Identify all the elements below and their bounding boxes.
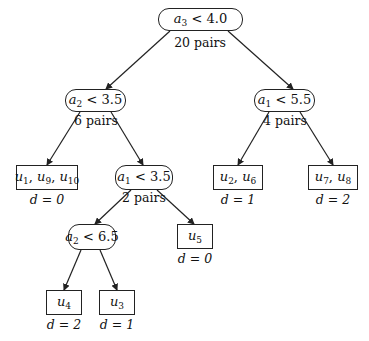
pairs-count-right: 4 pairs — [263, 113, 307, 128]
condition-label: a2 < 6.5 — [65, 229, 118, 246]
decision-node-root: a3 < 4.0 — [158, 8, 243, 31]
condition-label: a2 < 3.5 — [69, 92, 122, 109]
leaf-node-u4: u4 — [46, 290, 82, 315]
depth-label-u2-u6: d = 1 — [221, 192, 255, 207]
condition-label: a3 < 4.0 — [174, 11, 227, 28]
edge-root-to-right — [228, 31, 293, 89]
leaf-label: u7, u8 — [315, 169, 351, 186]
depth-label-u5: d = 0 — [178, 251, 212, 266]
depth-label-u3: d = 1 — [100, 317, 134, 332]
depth-label-u7-u8: d = 2 — [316, 192, 350, 207]
decision-node-left: a2 < 3.5 — [65, 89, 126, 112]
leaf-label: u3 — [110, 294, 124, 311]
edge-left-right-left-to-leaf-u4 — [64, 250, 81, 290]
pairs-count-left: 6 pairs — [74, 113, 118, 128]
leaf-label: u4 — [57, 294, 71, 311]
leaf-label: u1, u9, u10 — [15, 169, 80, 186]
leaf-label: u5 — [188, 228, 202, 245]
decision-node-right: a1 < 5.5 — [254, 89, 315, 112]
leaf-node-u2-u6: u2, u6 — [213, 165, 263, 190]
decision-node-left-right-left: a2 < 6.5 — [68, 224, 116, 250]
leaf-node-u1-u9-u10: u1, u9, u10 — [16, 165, 78, 190]
edge-root-to-left — [106, 31, 170, 89]
depth-label-u1-u9-u10: d = 0 — [30, 192, 64, 207]
leaf-label: u2, u6 — [220, 169, 256, 186]
condition-label: a1 < 3.5 — [117, 169, 170, 186]
depth-label-u4: d = 2 — [47, 317, 81, 332]
pairs-count-left-right: 2 pairs — [122, 190, 166, 205]
leaf-node-u3: u3 — [99, 290, 135, 315]
edge-left-right-left-to-leaf-u3 — [100, 250, 117, 290]
leaf-node-u5: u5 — [177, 224, 213, 249]
decision-node-left-right: a1 < 3.5 — [115, 165, 173, 190]
pairs-count-root: 20 pairs — [174, 35, 226, 50]
decision-tree-diagram: a3 < 4.0 20 pairs a2 < 3.5 6 pairs a1 < … — [0, 0, 369, 341]
condition-label: a1 < 5.5 — [258, 92, 311, 109]
leaf-node-u7-u8: u7, u8 — [308, 165, 358, 190]
